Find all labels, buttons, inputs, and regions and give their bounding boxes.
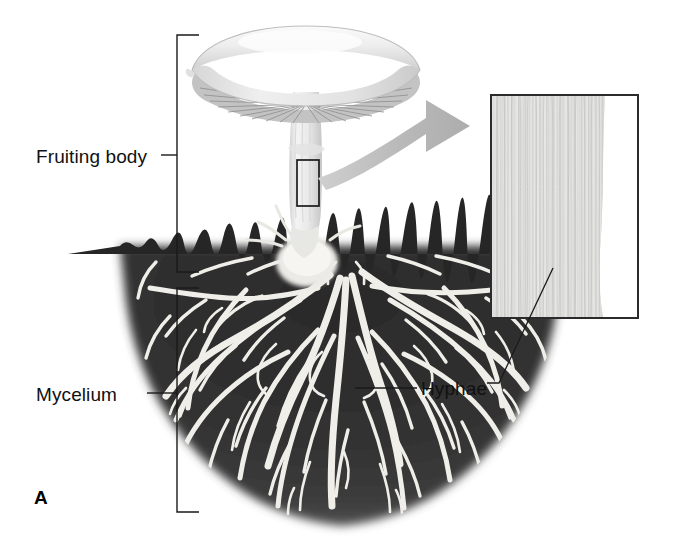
label-fruiting-body: Fruiting body <box>36 146 147 168</box>
panel-letter: A <box>34 487 48 509</box>
hyphae-magnified-inset <box>491 95 638 318</box>
label-hyphae: Hyphae <box>421 378 487 400</box>
mushroom-cap-group <box>186 26 420 123</box>
label-mycelium: Mycelium <box>36 384 117 406</box>
figure-panel: Fruiting body Mycelium Hyphae A <box>0 0 683 555</box>
fungus-diagram-svg <box>0 0 683 555</box>
